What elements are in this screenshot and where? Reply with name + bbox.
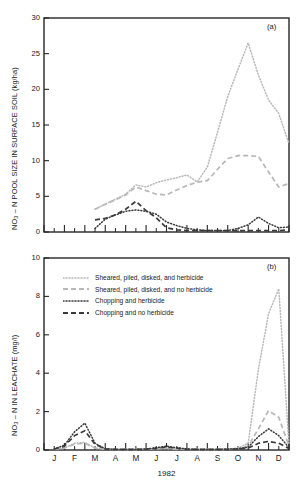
y-tick-label: 15 [18,120,40,129]
figure-container: NO3 – N POOL SIZE IN SURFACE SOIL (kg/ha… [0,0,305,493]
panel-a: NO3 – N POOL SIZE IN SURFACE SOIL (kg/ha… [0,0,305,246]
panel-a-tag: (a) [267,22,276,31]
series-line-2 [95,210,289,231]
legend-swatch-sheared-herbicide [63,274,89,282]
plot-frame [44,18,289,232]
panel-b: NO3 – N IN LEACHATE (mg/l) (b) Sheared, … [0,246,305,493]
legend-item-label: Chopping and herbicide [95,295,165,307]
legend-item-label: Sheared, piled, disked, and herbicide [95,272,204,284]
y-tick-label: 2 [18,407,40,416]
y-tick-label: 8 [18,291,40,300]
y-tick-label: 10 [18,156,40,165]
legend-swatch-chopping-no-herbicide [63,309,89,317]
y-tick-label: 6 [18,330,40,339]
series-line-1 [95,156,289,210]
legend-item-label: Chopping and no herbicide [95,307,174,319]
x-tick-label-month: M [87,454,103,463]
y-tick-label: 25 [18,49,40,58]
x-tick-label-month: J [46,454,62,463]
x-tick-label-month: S [210,454,226,463]
x-tick-label-month: J [148,454,164,463]
y-tick-label: 10 [18,253,40,262]
y-tick-label: 0 [18,227,40,236]
series-line-1 [54,411,289,450]
x-tick-label-month: A [189,454,205,463]
x-tick-label-month: M [128,454,144,463]
legend-item-label: Sheared, piled, disked, and no herbicide [95,284,213,296]
y-tick-label: 20 [18,84,40,93]
x-tick-label-month: D [271,454,287,463]
panel-b-y-axis-label: NO3 – N IN LEACHATE (mg/l) [10,335,19,436]
y-tick-label: 4 [18,368,40,377]
y-tick-label: 5 [18,191,40,200]
y-tick-label: 30 [18,13,40,22]
x-tick-label-month: N [250,454,266,463]
panel-b-tag: (b) [267,262,276,271]
x-tick-label-month: J [169,454,185,463]
series-line-3 [95,201,289,230]
legend-item: Chopping and herbicide [63,295,213,307]
legend-item: Sheared, piled, disked, and no herbicide [63,284,213,296]
legend-swatch-sheared-no-herbicide [63,285,89,293]
x-axis-title: 1982 [44,469,289,478]
legend-item: Sheared, piled, disked, and herbicide [63,272,213,284]
panel-a-plot [0,0,305,246]
x-tick-label-month: O [230,454,246,463]
x-tick-label-month: A [107,454,123,463]
x-tick-label-month: F [67,454,83,463]
legend: Sheared, piled, disked, and herbicideShe… [63,272,213,318]
legend-swatch-chopping-herbicide [63,297,89,305]
y-tick-label: 0 [18,445,40,454]
legend-item: Chopping and no herbicide [63,307,213,319]
